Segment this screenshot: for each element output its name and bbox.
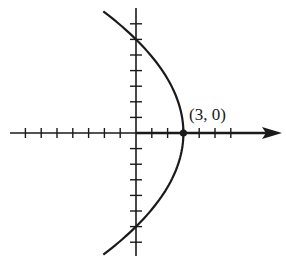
- vertex-point: [180, 129, 187, 136]
- parabola-graph: (3, 0): [0, 0, 286, 274]
- vertex-label: (3, 0): [189, 105, 226, 124]
- x-axis: [10, 127, 282, 139]
